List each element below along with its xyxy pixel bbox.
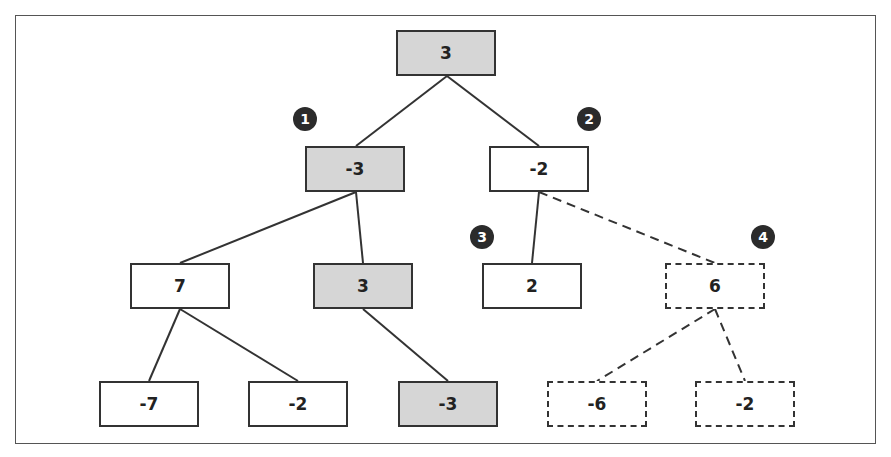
edge-l1-right-l2-c	[532, 192, 539, 263]
badge-number: 1	[300, 111, 310, 127]
tree-node-l3-e: -2	[695, 381, 795, 427]
edge-l2-d-l3-d	[597, 309, 715, 381]
tree-node-l2-c: 2	[482, 263, 582, 309]
node-value: 3	[357, 276, 369, 296]
badge-number: 2	[584, 111, 594, 127]
node-value: -3	[439, 394, 458, 414]
node-value: 6	[709, 276, 721, 296]
node-value: -3	[346, 159, 365, 179]
tree-node-l2-d: 6	[665, 263, 765, 309]
tree-node-l3-a: -7	[99, 381, 199, 427]
node-value: 3	[440, 43, 452, 63]
badge-number: 3	[477, 229, 487, 245]
callout-badge-2: 2	[577, 107, 601, 131]
edge-l2-a-l3-b	[180, 309, 298, 381]
callout-badge-3: 3	[470, 225, 494, 249]
node-value: -2	[530, 159, 549, 179]
badge-number: 4	[758, 229, 768, 245]
tree-node-l3-c: -3	[398, 381, 498, 427]
tree-node-l1-left: -3	[305, 146, 405, 192]
tree-node-l3-d: -6	[547, 381, 647, 427]
edge-root-l1-left	[356, 76, 447, 146]
node-value: -2	[289, 394, 308, 414]
node-value: -2	[736, 394, 755, 414]
edge-l2-d-l3-e	[715, 309, 745, 381]
tree-node-l2-a: 7	[130, 263, 230, 309]
edge-l1-left-l2-b	[356, 192, 363, 263]
node-value: -7	[140, 394, 159, 414]
tree-node-l1-right: -2	[489, 146, 589, 192]
edge-root-l1-right	[447, 76, 539, 146]
tree-node-l3-b: -2	[248, 381, 348, 427]
node-value: 2	[526, 276, 538, 296]
node-value: -6	[588, 394, 607, 414]
node-value: 7	[174, 276, 186, 296]
edge-l1-right-l2-d	[539, 192, 715, 263]
edge-l1-left-l2-a	[180, 192, 356, 263]
tree-node-root: 3	[396, 30, 496, 76]
edge-l2-b-l3-c	[363, 309, 448, 381]
callout-badge-1: 1	[293, 107, 317, 131]
tree-node-l2-b: 3	[313, 263, 413, 309]
callout-badge-4: 4	[751, 225, 775, 249]
edge-l2-a-l3-a	[149, 309, 180, 381]
